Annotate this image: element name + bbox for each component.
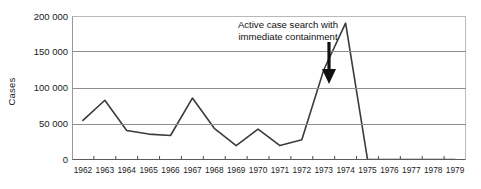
x-tick-label-1976: 1976 — [378, 165, 400, 181]
y-tick-150000: 150 000 — [8, 46, 68, 57]
x-tick-label-1966: 1966 — [160, 165, 182, 181]
down-arrow-icon — [320, 42, 338, 86]
x-tick-label-1971: 1971 — [269, 165, 291, 181]
annotation-line-2: immediate containment — [212, 31, 364, 43]
annotation-active-case-search: Active case search with immediate contai… — [212, 19, 364, 43]
y-axis-tick-labels: 200 000 150 000 100 000 50 000 0 — [4, 0, 68, 189]
x-axis-tick-labels: 1962196319641965196619671968196919701971… — [72, 165, 466, 181]
x-tick-label-1969: 1969 — [225, 165, 247, 181]
gridline-50000 — [72, 124, 466, 125]
gridline-150000 — [72, 51, 466, 52]
x-tick-label-1972: 1972 — [291, 165, 313, 181]
x-tick-label-1962: 1962 — [72, 165, 94, 181]
x-tick-label-1967: 1967 — [181, 165, 203, 181]
x-tick-label-1973: 1973 — [313, 165, 335, 181]
x-tick-label-1963: 1963 — [94, 165, 116, 181]
x-tick-label-1978: 1978 — [422, 165, 444, 181]
x-tick-label-1977: 1977 — [400, 165, 422, 181]
x-tick-label-1970: 1970 — [247, 165, 269, 181]
x-tick-label-1974: 1974 — [335, 165, 357, 181]
y-tick-100000: 100 000 — [8, 82, 68, 93]
x-tick-label-1964: 1964 — [116, 165, 138, 181]
line-chart: Cases 200 000 150 000 100 000 50 000 0 A… — [0, 0, 481, 189]
x-tick-label-1975: 1975 — [357, 165, 379, 181]
x-tick-label-1979: 1979 — [444, 165, 466, 181]
annotation-line-1: Active case search with — [212, 19, 364, 31]
x-tick-label-1968: 1968 — [203, 165, 225, 181]
gridline-100000 — [72, 88, 466, 89]
x-tick-label-1965: 1965 — [138, 165, 160, 181]
y-tick-0: 0 — [8, 154, 68, 165]
y-tick-200000: 200 000 — [8, 11, 68, 22]
y-tick-50000: 50 000 — [8, 118, 68, 129]
